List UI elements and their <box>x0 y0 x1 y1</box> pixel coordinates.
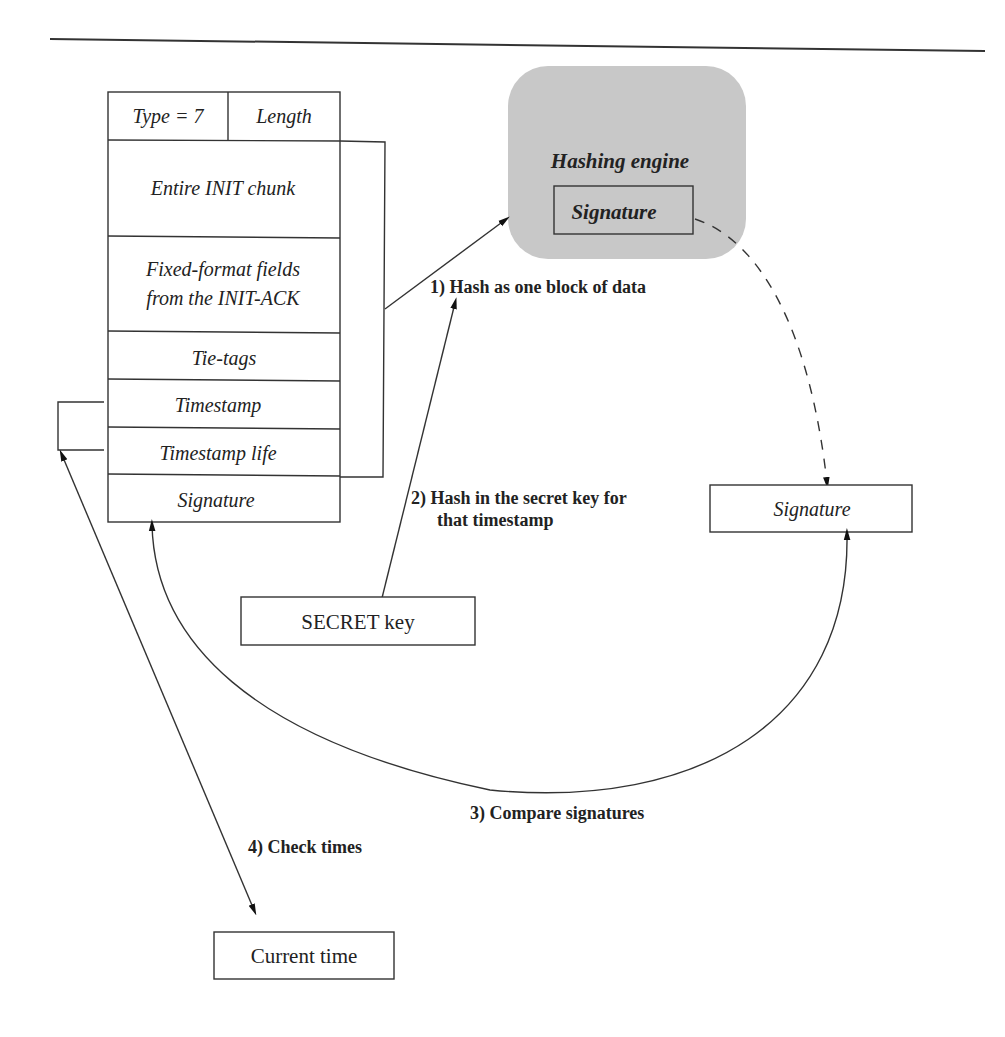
cookie-field-stack: Type = 7 Length Entire INIT chunk Fixed-… <box>108 92 340 522</box>
secret-key-label: SECRET key <box>301 610 415 634</box>
field-length: Length <box>255 105 312 128</box>
signature-output-dashed-arrow <box>695 219 827 483</box>
hashing-engine-title: Hashing engine <box>550 149 689 173</box>
step-2-label-line1: 2) Hash in the secret key for <box>411 488 627 509</box>
top-rule <box>50 39 985 51</box>
field-tie-tags: Tie-tags <box>192 347 257 370</box>
compare-signatures-arrow <box>152 525 847 793</box>
computed-signature-label: Signature <box>773 498 850 521</box>
hashing-engine: Hashing engine Signature <box>508 66 746 259</box>
field-type: Type = 7 <box>133 105 205 128</box>
secret-key-arrow <box>382 303 455 598</box>
step-2-label-line2: that timestamp <box>437 510 553 530</box>
check-times-arrow <box>62 455 254 910</box>
field-timestamp-life: Timestamp life <box>159 442 276 465</box>
field-fixed-format-line1: Fixed-format fields <box>145 258 300 281</box>
timestamp-bracket <box>58 402 104 450</box>
field-timestamp: Timestamp <box>175 394 262 417</box>
step-3-label: 3) Compare signatures <box>470 803 644 824</box>
field-fixed-format-line2: from the INIT-ACK <box>146 287 301 310</box>
field-init-chunk: Entire INIT chunk <box>150 177 297 199</box>
engine-signature-label: Signature <box>571 200 656 224</box>
current-time-label: Current time <box>251 944 358 968</box>
field-signature: Signature <box>177 489 254 512</box>
hashed-fields-bracket <box>340 141 385 477</box>
step-4-label: 4) Check times <box>248 837 362 858</box>
step-1-label: 1) Hash as one block of data <box>430 277 646 298</box>
cookie-validation-diagram: Hashing engine Signature Type = 7 Length… <box>0 0 1005 1037</box>
